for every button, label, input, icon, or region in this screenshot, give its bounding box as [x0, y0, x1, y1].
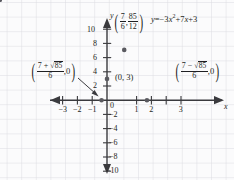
right-root-close-paren: )	[216, 65, 220, 77]
y-tick-neg8: −8	[109, 153, 118, 161]
right-root-num-lead: 7	[182, 61, 186, 70]
graph-figure: c.	[0, 0, 234, 180]
equation-label: y=−3x2+7x+3	[151, 13, 197, 24]
left-root-open-paren: (	[32, 65, 36, 77]
x-tick-3: 3	[179, 106, 183, 114]
left-root-radicand: 85	[54, 61, 63, 71]
y-tick-neg10: −10	[106, 167, 119, 175]
point-y-intercept	[105, 77, 110, 82]
right-root-open-paren: (	[176, 65, 180, 77]
point-vertex	[122, 48, 127, 53]
x-tick-1: 1	[134, 106, 138, 114]
left-root-num-op: +	[44, 61, 49, 70]
vertex-label: (76,8512)	[113, 13, 144, 31]
point-left-x-intercept	[99, 98, 104, 103]
right-root-label: (7 − √856,0)	[174, 61, 221, 81]
y-tick-neg4: −4	[109, 125, 118, 133]
point-right-x-intercept	[145, 98, 150, 103]
left-root-zero: 0	[66, 67, 70, 76]
left-root-label: (7 + √856,0)	[30, 61, 77, 81]
left-root-numerator: 7 + √85	[37, 61, 64, 72]
y-tick-6: 6	[93, 54, 97, 62]
y-intercept-label: (0, 3)	[115, 73, 133, 82]
origin-label: 0	[110, 102, 114, 110]
equation-term1-coeff: −3	[160, 14, 169, 24]
vertex-open-paren: (	[115, 16, 119, 28]
equation-term3: 3	[193, 14, 197, 24]
left-root-fraction: 7 + √856	[37, 61, 64, 81]
vertex-y-denominator: 12	[128, 22, 138, 31]
right-root-numerator: 7 − √85	[181, 61, 208, 72]
right-root-radical: √85	[194, 61, 207, 71]
right-root-denominator: 6	[181, 72, 208, 81]
right-root-fraction: 7 − √856	[181, 61, 208, 81]
y-tick-8: 8	[93, 40, 97, 48]
y-tick-neg2: −2	[109, 111, 118, 119]
x-tick-2: 2	[149, 106, 153, 114]
x-tick-neg2: −2	[73, 106, 82, 114]
x-tick-neg1: −1	[88, 106, 97, 114]
x-axis-label: x	[224, 103, 228, 111]
left-root-radical: √85	[50, 61, 63, 71]
y-tick-4: 4	[93, 68, 97, 76]
left-root-denominator: 6	[37, 72, 64, 81]
y-tick-neg6: −6	[109, 139, 118, 147]
right-root-radicand: 85	[198, 61, 207, 71]
right-root-num-op: −	[188, 61, 193, 70]
vertex-close-paren: )	[139, 16, 143, 28]
vertex-y-numerator: 85	[128, 13, 138, 22]
left-root-num-lead: 7	[38, 61, 42, 70]
y-tick-10: 10	[87, 26, 95, 34]
x-tick-neg3: −3	[58, 106, 67, 114]
vertex-y-fraction: 8512	[128, 13, 138, 31]
left-root-close-paren: )	[72, 65, 76, 77]
y-tick-2: 2	[93, 82, 97, 90]
right-root-zero: 0	[210, 67, 214, 76]
